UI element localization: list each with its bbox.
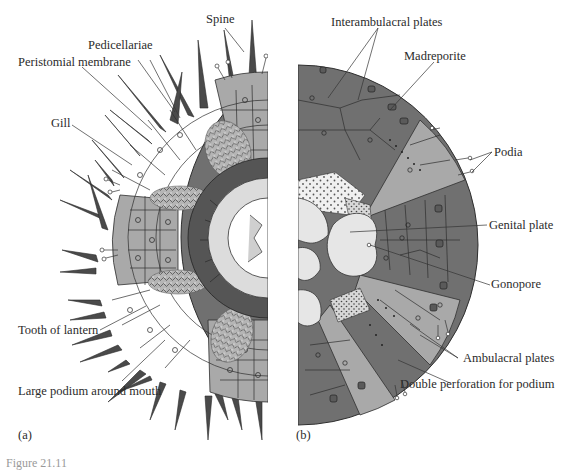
panel-label-a: (a) xyxy=(18,428,32,443)
label-large-podium: Large podium around mouth xyxy=(18,384,161,398)
panel-b-drawing xyxy=(298,65,478,425)
label-peristomial-membrane: Peristomial membrane xyxy=(18,55,131,69)
label-interambulacral-plates: Interambulacral plates xyxy=(331,15,442,29)
label-pedicellariae: Pedicellariae xyxy=(88,38,153,52)
panel-a-drawing xyxy=(60,20,268,440)
panel-divider xyxy=(268,50,298,450)
label-tooth-of-lantern: Tooth of lantern xyxy=(18,323,98,337)
panel-label-b: (b) xyxy=(296,428,311,443)
label-spine: Spine xyxy=(206,12,234,26)
label-madreporite: Madreporite xyxy=(404,49,466,63)
label-podia: Podia xyxy=(494,145,522,159)
label-gill: Gill xyxy=(51,116,70,130)
figure-caption: Figure 21.11 xyxy=(6,456,67,471)
label-genital-plate: Genital plate xyxy=(489,218,553,232)
label-gonopore: Gonopore xyxy=(491,277,541,291)
label-ambulacral-plates: Ambulacral plates xyxy=(463,351,554,365)
label-double-perforation: Double perforation for podium xyxy=(400,377,554,391)
